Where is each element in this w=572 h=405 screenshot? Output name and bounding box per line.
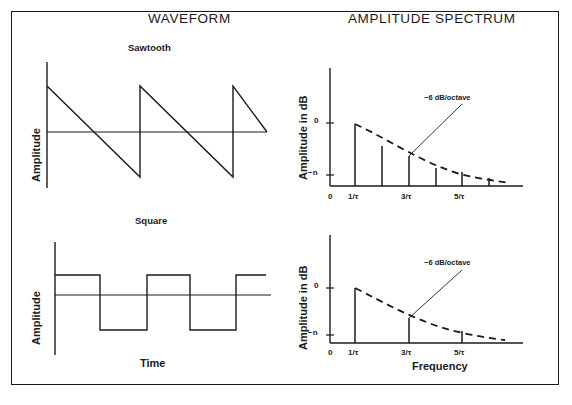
square-trace: [55, 275, 266, 330]
square-spectrum-plot: [326, 235, 523, 343]
square-plot: [55, 242, 271, 355]
sawtooth-plot: [47, 62, 267, 188]
spectrum-top-annotation-leader: [409, 104, 462, 156]
figure-canvas: WAVEFORM AMPLITUDE SPECTRUM Sawtooth Squ…: [0, 0, 572, 405]
spectrum-bottom-envelope: [355, 288, 505, 340]
sawtooth-spectrum-plot: [326, 68, 523, 186]
spectrum-bottom-annotation-leader: [409, 270, 462, 318]
plot-graphics: [0, 0, 572, 405]
